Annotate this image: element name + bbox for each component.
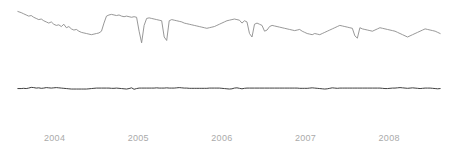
x-tick-label-2007: 2007 bbox=[295, 133, 316, 143]
x-tick-label-2008: 2008 bbox=[379, 133, 400, 143]
chart-container: 20042005200620072008 bbox=[0, 0, 456, 156]
x-tick-label-2006: 2006 bbox=[211, 133, 232, 143]
x-tick-label-2004: 2004 bbox=[44, 133, 65, 143]
x-tick-label-2005: 2005 bbox=[128, 133, 149, 143]
timeseries-plot: 20042005200620072008 bbox=[0, 0, 456, 156]
